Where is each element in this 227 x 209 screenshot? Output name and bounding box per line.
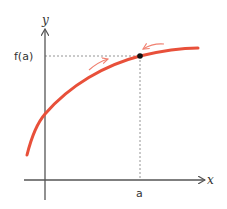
function-curve — [27, 48, 198, 155]
y-axis-label: y — [41, 13, 49, 27]
right-approach-arrow-icon — [143, 44, 164, 49]
a-label: a — [136, 187, 143, 200]
function-graph: y x f(a) a — [0, 0, 227, 209]
point-a-fa — [137, 53, 143, 59]
x-axis-label: x — [207, 173, 214, 187]
f-of-a-label: f(a) — [14, 50, 33, 63]
